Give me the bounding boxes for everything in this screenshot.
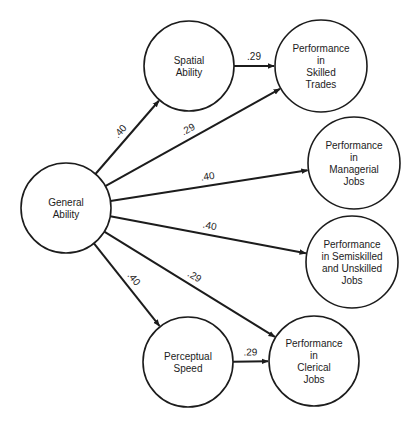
node-label-line: Trades xyxy=(306,79,337,90)
node-general: GeneralAbility xyxy=(21,163,111,253)
node-label-line: and Unskilled xyxy=(322,263,382,274)
node-label-line: Performance xyxy=(285,338,343,349)
node-clerical: PerformanceinClericalJobs xyxy=(269,316,359,406)
edge-label: .29 xyxy=(247,51,261,62)
node-label-line: Jobs xyxy=(341,275,362,286)
node-label-line: Perceptual xyxy=(164,351,212,362)
node-label-line: Jobs xyxy=(343,176,364,187)
node-label-line: Ability xyxy=(53,209,80,220)
path-diagram: .40.29.40.40.29.40.29.29 GeneralAbilityS… xyxy=(0,0,417,425)
node-label-line: Speed xyxy=(174,363,203,374)
node-skilled: PerformanceinSkilledTrades xyxy=(275,20,367,112)
node-label-line: Spatial xyxy=(174,55,205,66)
node-label-line: Performance xyxy=(325,140,383,151)
edge-label: .29 xyxy=(243,346,257,357)
node-label-line: in Semiskilled xyxy=(321,251,382,262)
node-managerial: PerformanceinManagerialJobs xyxy=(308,117,400,209)
edge-general-to-perceptual xyxy=(94,243,159,326)
node-perceptual: PerceptualSpeed xyxy=(143,317,233,407)
node-label-line: Ability xyxy=(176,67,203,78)
node-spatial: SpatialAbility xyxy=(144,21,234,111)
edge-label: .29 xyxy=(186,268,204,285)
edge-label: .40 xyxy=(202,219,218,232)
node-semiskilled: Performancein Semiskilledand UnskilledJo… xyxy=(306,216,398,308)
node-label-line: in xyxy=(310,350,318,361)
node-label-line: in xyxy=(317,55,325,66)
edge-label: .29 xyxy=(179,121,197,138)
node-label-line: in xyxy=(350,152,358,163)
node-label-line: Skilled xyxy=(306,67,335,78)
edge-label: .40 xyxy=(200,170,216,183)
node-label-line: Managerial xyxy=(329,164,378,175)
node-label-line: Performance xyxy=(323,239,381,250)
node-label-line: Clerical xyxy=(297,362,330,373)
node-label-line: General xyxy=(48,197,84,208)
edge-general-to-spatial xyxy=(95,101,158,174)
nodes-layer: GeneralAbilitySpatialAbilityPerceptualSp… xyxy=(21,20,400,407)
node-label-line: Jobs xyxy=(303,374,324,385)
node-label-line: Performance xyxy=(292,43,350,54)
